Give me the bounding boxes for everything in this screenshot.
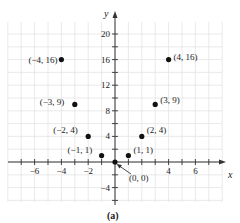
y-tick-label: 12 [101,80,110,90]
x-axis-label: x [227,169,233,180]
data-points: (−4, 16)(−3, 9)(−2, 4)(−1, 1)(0, 0)(1, 1… [28,52,197,183]
point-label: (−4, 16) [28,55,57,65]
point-label: (−2, 4) [53,125,78,135]
x-tick-label: 4 [166,166,171,176]
data-point [72,102,77,107]
origin-pointer [117,164,132,174]
y-axis-arrow-icon [113,11,118,18]
origin-arrow-icon [117,164,123,169]
data-point [99,153,104,158]
data-point [112,159,117,164]
point-label: (0, 0) [129,173,149,183]
point-label: (4, 16) [174,52,198,62]
data-point [153,102,158,107]
y-tick-label: 8 [106,106,111,116]
point-label: (−3, 9) [40,97,65,107]
point-label: (3, 9) [160,95,180,105]
data-point [139,134,144,139]
data-point [59,57,64,62]
x-tick-label: −6 [30,166,40,176]
data-point [166,57,171,62]
point-label: (−1, 1) [68,145,93,155]
y-tick-label: 20 [101,29,111,39]
x-tick-label: −4 [57,166,67,176]
data-point [126,153,131,158]
figure-caption: (a) [107,210,119,222]
scatter-chart: x y −6−4−246−448121620 (−4, 16)(−3, 9)(−… [0,0,240,223]
x-tick-label: 6 [193,166,198,176]
y-tick-label: 4 [106,131,111,141]
y-tick-label: 16 [101,55,111,65]
y-tick-label: −4 [100,183,110,193]
point-label: (2, 4) [147,125,167,135]
data-point [86,134,91,139]
point-label: (1, 1) [133,145,153,155]
x-tick-label: −2 [83,166,93,176]
y-axis-label: y [103,8,109,19]
